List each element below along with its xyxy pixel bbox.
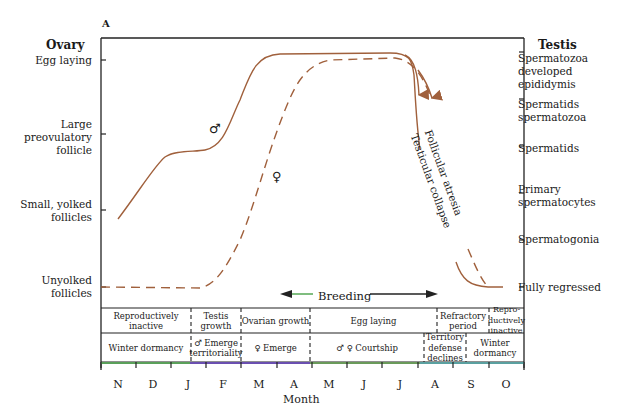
behavior-male-emerge: ♂ Emerge territoriality — [191, 334, 241, 362]
phase-reproductively-inactive-2: Repro-ductively inactive — [489, 309, 524, 333]
month-label: F — [213, 378, 233, 391]
month-label: J — [390, 378, 410, 391]
month-label: D — [143, 378, 163, 391]
month-label: A — [284, 378, 304, 391]
breeding-label: Breeding — [318, 289, 371, 303]
female-curve-regression — [468, 249, 488, 287]
x-axis-title: Month — [283, 393, 319, 406]
month-label: J — [354, 378, 374, 391]
month-label: M — [249, 378, 269, 391]
male-testis-curve — [118, 53, 420, 219]
left-axis-ticks — [101, 60, 106, 287]
month-label: S — [461, 378, 481, 391]
female-ovary-curve — [101, 58, 430, 288]
female-symbol: ♀ — [272, 169, 282, 184]
phase-refractory-period: Refractory period — [437, 309, 489, 333]
behavior-female-emerge: ♀ Emerge — [241, 334, 310, 362]
right-axis-ticks — [519, 52, 524, 287]
phase-reproductively-inactive: Reproductively inactive — [101, 309, 191, 333]
behavior-winter-dormancy-2: Winter dormancy — [466, 334, 524, 362]
behavior-territory-defense-declines: Territory defense declines — [424, 334, 466, 362]
phase-testis-growth: Testis growth — [191, 309, 241, 333]
male-curve-regression — [456, 262, 503, 287]
phase-ovarian-growth: Ovarian growth — [241, 309, 310, 333]
phase-egg-laying: Egg laying — [310, 309, 437, 333]
breeding-arrow-left — [280, 290, 313, 298]
behavior-courtship: ♂ ♀ Courtship — [310, 334, 424, 362]
behavior-winter-dormancy: Winter dormancy — [101, 334, 191, 362]
month-label: N — [108, 378, 128, 391]
testicular-collapse-arrow — [405, 55, 419, 95]
month-label: J — [178, 378, 198, 391]
month-label: O — [496, 378, 516, 391]
male-symbol: ♂ — [209, 121, 221, 136]
month-label: A — [425, 378, 445, 391]
month-label: M — [319, 378, 339, 391]
breeding-arrow-right — [370, 290, 438, 298]
